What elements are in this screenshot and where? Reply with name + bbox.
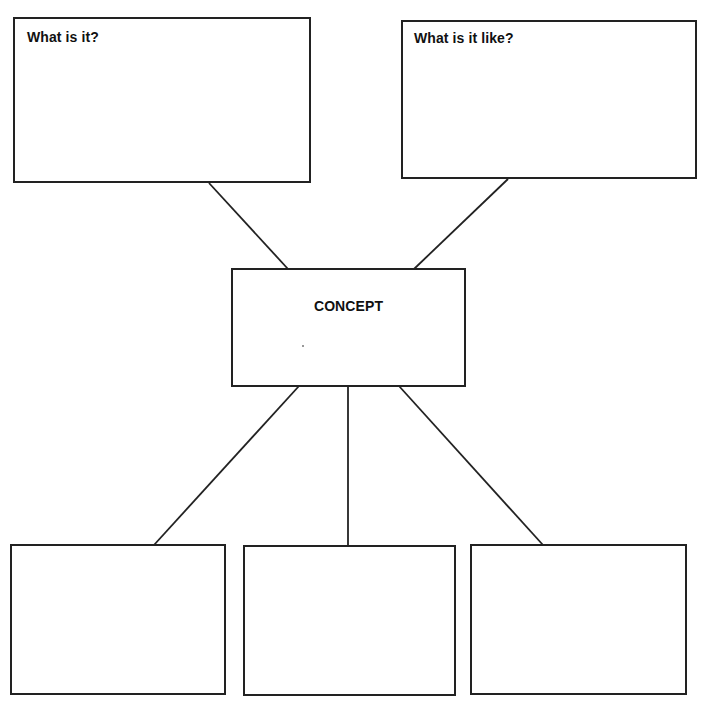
box-concept[interactable]: CONCEPT [231, 268, 466, 387]
connector-bottom-right [399, 386, 543, 545]
box-what-is-it[interactable]: What is it? [13, 17, 311, 183]
box-what-is-it-like-label: What is it like? [414, 30, 514, 46]
box-what-is-it-like[interactable]: What is it like? [401, 20, 697, 179]
box-bottom-center[interactable] [243, 545, 456, 696]
stray-mark [302, 345, 304, 347]
connector-what-is-it [209, 183, 288, 269]
connector-what-is-it-like [414, 179, 508, 269]
connector-bottom-left [154, 386, 299, 545]
concept-map: What is it? What is it like? CONCEPT [0, 0, 702, 713]
box-what-is-it-label: What is it? [27, 29, 99, 45]
box-bottom-right[interactable] [470, 544, 687, 695]
box-bottom-left[interactable] [10, 544, 226, 695]
concept-label: CONCEPT [233, 298, 464, 314]
